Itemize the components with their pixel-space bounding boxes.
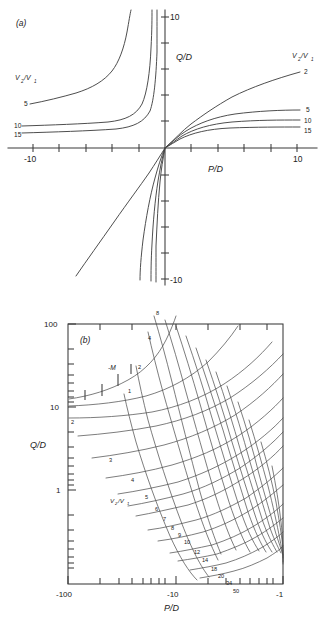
- mesh-v-2: [69, 316, 176, 399]
- series-label-b-m-8: 8: [156, 310, 159, 316]
- x-tick-label-b-100: -100: [56, 590, 73, 599]
- ratio-label-a-right-div: /V: [300, 52, 309, 59]
- ratio-label-a-right-sub2: 1: [311, 57, 314, 62]
- series-label-a-left-15: 15: [14, 131, 22, 138]
- ratio-label-a-left: V 2 /V 1: [15, 74, 37, 84]
- panel-a: Q/D P/D 10 -10 -10 10 (a) V 2 /V 1 V 2 /…: [0, 0, 325, 300]
- y-tick-label-a-top: 10: [170, 12, 180, 22]
- mesh-v-4: [69, 342, 272, 418]
- series-label-b-v-18: 18: [211, 566, 217, 572]
- y-tick-label-b-100: 100: [44, 320, 58, 329]
- series-label-a-right-15: 15: [304, 127, 312, 134]
- mesh-m-strand-3: [186, 336, 259, 551]
- series-label-b-v-50: 50: [233, 588, 239, 594]
- y-tick-label-b-10: 10: [50, 403, 59, 412]
- series-label-b-v-7: 7: [163, 516, 166, 522]
- series-label-b-v-8: 8: [171, 525, 174, 531]
- ratio-label-a-right: V 2 /V 1: [292, 52, 314, 62]
- series-label-b-v-34: 34: [226, 580, 232, 586]
- x-tick-label-b-1: -1: [276, 590, 284, 599]
- curve-a-right-15: [165, 127, 300, 148]
- series-label-b-v-14: 14: [202, 557, 208, 563]
- ratio-label-b-sub2: 1: [127, 501, 129, 506]
- series-label-b-m-1: 1: [128, 388, 131, 394]
- ratio-label-b: V 2 /V 1: [110, 497, 129, 506]
- mesh-m-strand-4: [196, 348, 266, 552]
- y-axis-label-a: Q/D: [176, 52, 193, 62]
- y-ticks-b: [68, 324, 76, 568]
- curve-a-left-5: [30, 10, 131, 104]
- series-label-b-v-3: 3: [109, 457, 112, 463]
- x-tick-label-a-right: 10: [293, 154, 303, 164]
- series-label-a-right-5: 5: [306, 106, 310, 113]
- x-ticks-b: [68, 576, 283, 584]
- ratio-label-b-div: /V: [117, 497, 125, 504]
- panel-label-a: (a): [16, 18, 27, 28]
- series-label-b-v-2: 2: [71, 419, 74, 425]
- series-label-b-v-5: 5: [145, 494, 148, 500]
- panel-label-b: (b): [80, 335, 91, 345]
- series-label-b-v-9: 9: [178, 532, 181, 538]
- mesh-m-strand-2: [176, 326, 250, 552]
- panel-b: Q/D P/D 100 10 1 -100 -10 -1 (b) -M V 2 …: [0, 306, 325, 618]
- mesh-v-50: [200, 546, 283, 578]
- y-tick-label-b-1: 1: [56, 486, 61, 495]
- series-label-b-v-10: 10: [184, 539, 190, 545]
- x-tick-label-a-left: -10: [24, 154, 37, 164]
- panel-b-plot: Q/D P/D 100 10 1 -100 -10 -1 (b) -M V 2 …: [0, 306, 325, 618]
- x-axis-label-b: P/D: [164, 603, 180, 613]
- figure-container: Q/D P/D 10 -10 -10 10 (a) V 2 /V 1 V 2 /…: [0, 0, 325, 618]
- ratio-label-a-left-sub2: 1: [34, 79, 37, 84]
- m-family-label-b: -M: [108, 364, 116, 371]
- curve-a-right-10: [165, 120, 300, 148]
- mesh-v-34: [190, 532, 283, 570]
- top-ticks-b: [100, 324, 267, 330]
- panel-a-plot: Q/D P/D 10 -10 -10 10 (a) V 2 /V 1 V 2 /…: [0, 0, 325, 300]
- series-label-b-v-6: 6: [155, 506, 158, 512]
- series-label-a-left-5: 5: [24, 100, 28, 107]
- series-label-a-right-2: 2: [304, 68, 308, 75]
- x-tick-label-b-10: -10: [167, 590, 179, 599]
- curve-a-left-10: [22, 10, 152, 126]
- series-label-b-v-12: 12: [194, 549, 200, 555]
- y-axis-label-b: Q/D: [30, 440, 47, 450]
- mesh-v-8: [118, 418, 283, 494]
- mesh-m-strand-1: [165, 320, 236, 550]
- mesh-m-1: [124, 394, 197, 580]
- curve-a-left-15: [22, 10, 157, 133]
- series-label-b-v-4: 4: [131, 477, 134, 483]
- plot-frame-b: [68, 324, 283, 584]
- series-label-b-v-20: 20: [218, 573, 224, 579]
- series-label-a-right-10: 10: [304, 117, 312, 124]
- series-label-b-m-2: 2: [138, 364, 141, 370]
- series-label-a-left-10: 10: [14, 122, 22, 129]
- mesh-v-7: [106, 398, 283, 478]
- ratio-label-a-left-div: /V: [23, 74, 32, 81]
- y-tick-label-a-bottom: -10: [170, 275, 183, 285]
- x-axis-label-a: P/D: [208, 164, 224, 174]
- series-label-b-m-4: 4: [148, 335, 151, 341]
